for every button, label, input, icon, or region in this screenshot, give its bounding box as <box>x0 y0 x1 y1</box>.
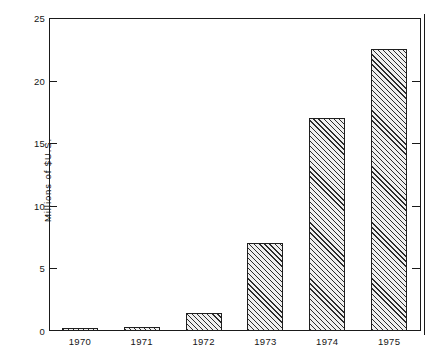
bar <box>62 328 98 331</box>
x-axis-tick-label: 1972 <box>192 336 214 347</box>
bar-chart: Millions of $U.S. 0510152025 19701971197… <box>0 0 441 360</box>
bar <box>247 243 283 331</box>
right-axis-outer-line <box>424 14 425 335</box>
bars-group <box>49 18 420 331</box>
x-axis-tick-label: 1971 <box>131 336 153 347</box>
y-axis-tick-label: 20 <box>34 75 45 86</box>
bar <box>371 49 407 331</box>
x-axis-tick-label: 1975 <box>378 336 400 347</box>
bar <box>309 118 345 331</box>
y-axis-tick-label: 5 <box>40 263 45 274</box>
y-axis-tick-label: 15 <box>34 138 45 149</box>
bar <box>124 327 160 331</box>
y-axis-tick-label: 10 <box>34 200 45 211</box>
y-axis-tick-label: 0 <box>40 326 45 337</box>
right-axis-line <box>420 18 421 331</box>
x-axis-tick-label: 1974 <box>316 336 338 347</box>
x-axis-tick-label: 1970 <box>69 336 91 347</box>
y-axis-tick-label: 25 <box>34 13 45 24</box>
bar <box>186 313 222 331</box>
x-axis-tick-label: 1973 <box>254 336 276 347</box>
